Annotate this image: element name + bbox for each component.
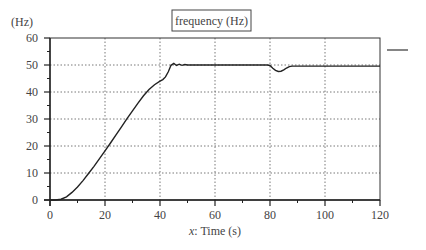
y-tick-label: 40 bbox=[26, 85, 38, 99]
x-tick-label: 40 bbox=[154, 208, 166, 222]
x-tick-label: 120 bbox=[371, 208, 389, 222]
chart-title: frequency (Hz) bbox=[175, 14, 248, 28]
frequency-chart: 0204060801001200102030405060 frequency (… bbox=[0, 0, 426, 250]
y-tick-label: 30 bbox=[26, 112, 38, 126]
y-tick-label: 50 bbox=[26, 58, 38, 72]
grid-lines bbox=[50, 38, 380, 200]
axis-ticks bbox=[44, 38, 380, 206]
x-tick-label: 60 bbox=[209, 208, 221, 222]
x-tick-label: 80 bbox=[264, 208, 276, 222]
y-tick-label: 10 bbox=[26, 166, 38, 180]
x-tick-label: 100 bbox=[316, 208, 334, 222]
chart-title-box: frequency (Hz) bbox=[172, 10, 251, 31]
x-axis-label: x: Time (s) bbox=[188, 224, 241, 238]
y-tick-label: 20 bbox=[26, 139, 38, 153]
x-tick-label: 20 bbox=[99, 208, 111, 222]
y-tick-label: 0 bbox=[32, 193, 38, 207]
x-tick-label: 0 bbox=[47, 208, 53, 222]
axes bbox=[44, 38, 380, 206]
y-tick-label: 60 bbox=[26, 31, 38, 45]
x-axis-label-text: : Time (s) bbox=[194, 224, 241, 238]
y-axis-label: (Hz) bbox=[11, 15, 33, 29]
tick-labels: 0204060801001200102030405060 bbox=[26, 31, 389, 222]
